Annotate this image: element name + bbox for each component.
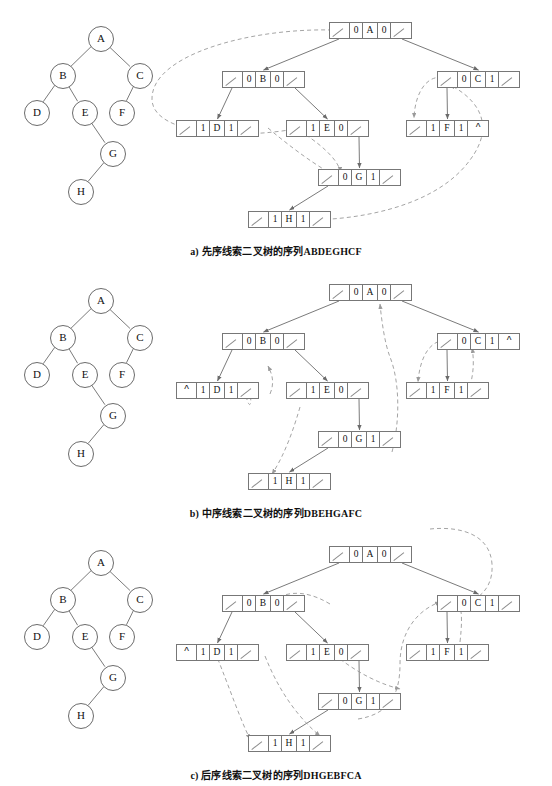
node-record-h: 1H1 bbox=[248, 211, 331, 228]
child-pointer-arrow bbox=[402, 39, 479, 70]
rtag-cell: 0 bbox=[271, 596, 284, 611]
lchild-cell bbox=[319, 170, 339, 185]
ltag-cell: 1 bbox=[427, 645, 440, 660]
node-record-a: 0A0 bbox=[329, 284, 412, 301]
lchild-cell bbox=[330, 285, 350, 300]
child-pointer-arrow bbox=[402, 301, 479, 332]
child-pointer-arrow bbox=[447, 350, 448, 381]
rtag-cell: 1 bbox=[455, 383, 468, 398]
tree-edge bbox=[126, 610, 133, 625]
child-pointer-arrow bbox=[295, 612, 328, 643]
rtag-cell: 1 bbox=[486, 334, 499, 349]
data-cell: D bbox=[210, 121, 225, 136]
rchild-cell bbox=[284, 596, 304, 611]
rchild-cell bbox=[468, 645, 488, 660]
panel-inorder-threaded-tree: ABCDEFGH0A00B00C1^^1D11E01F10G11H1b) 中序线… bbox=[0, 262, 552, 524]
ltag-cell: 1 bbox=[197, 383, 210, 398]
tree-node-label: F bbox=[119, 630, 125, 642]
ltag-cell: 1 bbox=[427, 383, 440, 398]
data-cell: G bbox=[352, 694, 367, 709]
data-cell: A bbox=[363, 547, 378, 562]
tree-edge bbox=[91, 646, 105, 666]
rchild-cell bbox=[499, 596, 519, 611]
tree-edge bbox=[126, 86, 133, 101]
rtag-cell: 0 bbox=[378, 285, 391, 300]
tree-node-label: C bbox=[136, 331, 143, 343]
data-cell: H bbox=[282, 474, 297, 489]
tree-node-d: D bbox=[24, 624, 50, 650]
tree-node-label: A bbox=[97, 294, 105, 306]
ltag-cell: 0 bbox=[339, 694, 352, 709]
rtag-cell: 1 bbox=[367, 694, 380, 709]
tree-node-label: B bbox=[59, 69, 66, 81]
tree-node-label: C bbox=[136, 69, 143, 81]
child-pointer-arrow bbox=[295, 350, 328, 381]
rchild-cell bbox=[310, 736, 330, 751]
child-pointer-arrow bbox=[359, 399, 360, 430]
node-record-h: 1H1 bbox=[248, 473, 331, 490]
tree-node-f: F bbox=[109, 362, 135, 388]
lchild-cell bbox=[330, 23, 350, 38]
lchild-cell bbox=[223, 596, 243, 611]
tree-edge bbox=[68, 348, 77, 364]
tree-node-c: C bbox=[127, 587, 153, 613]
tree-node-e: E bbox=[72, 624, 98, 650]
lchild-cell bbox=[249, 212, 269, 227]
node-record-g: 0G1 bbox=[318, 169, 401, 186]
node-record-d: 1D1 bbox=[176, 120, 259, 137]
tree-edge bbox=[43, 85, 55, 102]
tree-node-label: E bbox=[82, 106, 89, 118]
tree-node-c: C bbox=[127, 63, 153, 89]
ltag-cell: 0 bbox=[350, 547, 363, 562]
child-pointer-arrow bbox=[359, 661, 360, 692]
tree-node-label: E bbox=[82, 630, 89, 642]
rtag-cell: 1 bbox=[225, 383, 238, 398]
panel-postorder-threaded-tree: ABCDEFGH0A00B00C1^1D11E01F10G11H1c) 后序线索… bbox=[0, 524, 552, 786]
tree-edge bbox=[91, 122, 105, 142]
ltag-cell: 0 bbox=[243, 72, 256, 87]
thread-pointer-arrow bbox=[340, 659, 400, 689]
node-record-a: 0A0 bbox=[329, 546, 412, 563]
tree-node-label: C bbox=[136, 593, 143, 605]
rtag-cell: 1 bbox=[367, 432, 380, 447]
tree-edge bbox=[88, 687, 104, 706]
node-record-c: 0C1^ bbox=[437, 333, 520, 350]
node-record-a: 0A0 bbox=[329, 22, 412, 39]
tree-node-label: G bbox=[109, 409, 117, 421]
rtag-cell: 1 bbox=[297, 474, 310, 489]
tree-node-label: B bbox=[59, 593, 66, 605]
rtag-cell: 1 bbox=[486, 596, 499, 611]
tree-node-a: A bbox=[88, 550, 114, 576]
tree-edge bbox=[71, 309, 91, 329]
lchild-cell bbox=[287, 121, 307, 136]
tree-edge bbox=[109, 47, 130, 67]
tree-node-c: C bbox=[127, 325, 153, 351]
rtag-cell: 0 bbox=[335, 383, 348, 398]
ltag-cell: 0 bbox=[458, 596, 471, 611]
tree-node-g: G bbox=[100, 665, 126, 691]
tree-node-h: H bbox=[68, 179, 94, 205]
node-record-e: 1E0 bbox=[286, 120, 369, 137]
lchild-cell bbox=[319, 432, 339, 447]
lchild-cell bbox=[249, 736, 269, 751]
tree-node-label: B bbox=[59, 331, 66, 343]
lchild-cell bbox=[177, 121, 197, 136]
data-cell: B bbox=[256, 596, 271, 611]
rtag-cell: 0 bbox=[335, 645, 348, 660]
rtag-cell: 1 bbox=[455, 121, 468, 136]
lchild-cell bbox=[287, 383, 307, 398]
node-record-c: 0C1 bbox=[437, 595, 520, 612]
lchild-cell bbox=[407, 383, 427, 398]
ltag-cell: 0 bbox=[350, 23, 363, 38]
tree-edge bbox=[68, 610, 77, 626]
rtag-cell: 0 bbox=[378, 547, 391, 562]
thread-pointer-arrow bbox=[380, 304, 398, 452]
rchild-cell bbox=[348, 383, 368, 398]
tree-edge bbox=[43, 347, 55, 364]
data-cell: D bbox=[210, 383, 225, 398]
lchild-cell bbox=[319, 694, 339, 709]
rchild-cell bbox=[391, 547, 411, 562]
tree-node-label: H bbox=[77, 709, 85, 721]
tree-edge bbox=[88, 163, 104, 182]
ltag-cell: 1 bbox=[269, 736, 282, 751]
